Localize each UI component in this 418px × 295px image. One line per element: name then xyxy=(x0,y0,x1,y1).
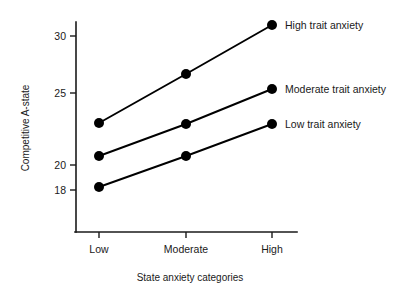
series-marker-moderate-low xyxy=(94,151,104,161)
y-tick-label: 30 xyxy=(54,30,66,42)
series-marker-low-high xyxy=(267,119,277,129)
y-tick-label: 20 xyxy=(54,159,66,171)
y-axis-title: Competitive A-state xyxy=(20,84,31,171)
series-high-trait-anxiety xyxy=(94,20,277,128)
legend-label-high-trait-anxiety: High trait anxiety xyxy=(285,19,364,31)
legend: High trait anxiety Moderate trait anxiet… xyxy=(285,19,387,130)
series-marker-high-high xyxy=(267,20,277,30)
series-marker-high-moderate xyxy=(181,69,191,79)
y-tick-marks xyxy=(70,36,76,190)
legend-label-moderate-trait-anxiety: Moderate trait anxiety xyxy=(285,83,387,95)
series-marker-moderate-moderate xyxy=(181,119,191,129)
series-marker-low-moderate xyxy=(181,151,191,161)
y-tick-label: 18 xyxy=(54,184,66,196)
x-axis-title: State anxiety categories xyxy=(137,272,244,283)
x-tick-label: Moderate xyxy=(164,243,209,255)
series-marker-moderate-high xyxy=(267,84,277,94)
legend-label-low-trait-anxiety: Low trait anxiety xyxy=(285,118,362,130)
x-tick-label: Low xyxy=(89,243,109,255)
series-marker-high-low xyxy=(94,118,104,128)
series-low-trait-anxiety xyxy=(94,119,277,192)
line-chart: 30 25 20 18 Low Moderate High Competitiv… xyxy=(0,0,418,295)
x-tick-labels: Low Moderate High xyxy=(89,243,283,255)
x-tick-label: High xyxy=(261,243,283,255)
x-tick-marks xyxy=(99,232,272,238)
series-marker-low-low xyxy=(94,182,104,192)
y-tick-label: 25 xyxy=(54,87,66,99)
series-moderate-trait-anxiety xyxy=(94,84,277,161)
y-tick-labels: 30 25 20 18 xyxy=(54,30,66,196)
